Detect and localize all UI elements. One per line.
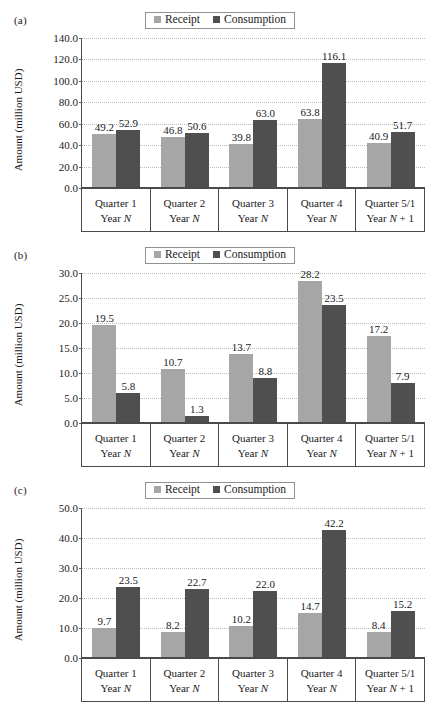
bar-consumption[interactable]: 1.3 [185, 416, 209, 423]
category-year-prefix: Year [306, 212, 329, 224]
bar-consumption[interactable]: 5.8 [116, 393, 140, 422]
category-quarter-label: Quarter 1 [95, 667, 137, 679]
category-cell: Quarter 2Year N [151, 424, 220, 466]
category-year-symbol: N [124, 447, 131, 459]
y-tick-label: 120.0 [53, 53, 78, 65]
bar-consumption[interactable]: 52.9 [116, 130, 140, 187]
legend-item-consumption: Consumption [213, 484, 286, 496]
chart-legend: ReceiptConsumption [0, 482, 440, 499]
category-quarter-label: Quarter 5/1 [365, 667, 415, 679]
bar-consumption[interactable]: 51.7 [391, 132, 415, 187]
bar-consumption[interactable]: 7.9 [391, 383, 415, 423]
category-quarter-label: Quarter 5/1 [365, 197, 415, 209]
bar-receipt[interactable]: 8.2 [161, 632, 185, 657]
bar-value-label: 46.8 [163, 124, 182, 136]
category-year-symbol: N [192, 212, 199, 224]
bar-value-label: 10.7 [163, 356, 182, 368]
category-cell: Quarter 1Year N [82, 424, 151, 466]
bar-groups: 19.55.810.71.313.78.828.223.517.27.9 [82, 273, 425, 422]
bar-consumption[interactable]: 15.2 [391, 611, 415, 657]
bar-value-label: 28.2 [300, 268, 319, 280]
bar-groups: 9.723.58.222.710.222.014.742.28.415.2 [82, 508, 425, 657]
category-year-symbol: N [389, 682, 396, 694]
legend-item-receipt: Receipt [154, 484, 200, 496]
legend-swatch-receipt-icon [154, 251, 161, 258]
y-tick-label: 0.0 [64, 652, 78, 664]
category-year-prefix: Year [238, 682, 261, 694]
legend-label-consumption: Consumption [224, 484, 286, 496]
plot-frame: 0.010.020.030.040.050.09.723.58.222.710.… [81, 508, 425, 658]
category-year-label: Year N [306, 682, 336, 694]
category-quarter-label: Quarter 4 [301, 667, 343, 679]
bar-receipt[interactable]: 10.2 [229, 626, 253, 657]
bar-receipt[interactable]: 13.7 [229, 354, 253, 423]
category-cell: Quarter 3Year N [219, 424, 288, 466]
legend-item-consumption: Consumption [213, 14, 286, 26]
bar-consumption[interactable]: 42.2 [322, 530, 346, 657]
bar-receipt[interactable]: 46.8 [161, 137, 185, 187]
category-year-symbol: N [329, 212, 336, 224]
bar-value-label: 5.8 [121, 380, 135, 392]
category-year-symbol: N [192, 682, 199, 694]
bar-group: 14.742.2 [288, 508, 357, 657]
y-tick-label: 100.0 [53, 75, 78, 87]
y-axis-title-text: Amount (million USD) [12, 68, 24, 171]
bar-receipt[interactable]: 10.7 [161, 369, 185, 423]
bar-receipt[interactable]: 49.2 [92, 134, 116, 187]
bar-value-label: 23.5 [119, 574, 138, 586]
bar-receipt[interactable]: 63.8 [298, 119, 322, 187]
category-year-prefix: Year [101, 682, 124, 694]
category-year-label: Year N [101, 682, 131, 694]
category-year-label: Year N [169, 447, 199, 459]
bar-value-label: 50.6 [187, 120, 206, 132]
legend-box: ReceiptConsumption [145, 247, 295, 264]
bar-consumption[interactable]: 23.5 [116, 587, 140, 658]
bar-group: 10.222.0 [219, 508, 288, 657]
bar-group: 39.863.0 [219, 38, 288, 187]
legend-box: ReceiptConsumption [145, 12, 295, 29]
bar-value-label: 63.8 [300, 106, 319, 118]
chart-legend: ReceiptConsumption [0, 12, 440, 29]
category-year-symbol: N [389, 212, 396, 224]
category-year-prefix: Year [238, 447, 261, 459]
category-year-prefix: Year [366, 212, 389, 224]
category-quarter-label: Quarter 2 [163, 667, 205, 679]
bar-receipt[interactable]: 14.7 [298, 613, 322, 657]
bar-consumption[interactable]: 116.1 [322, 63, 346, 187]
bar-receipt[interactable]: 9.7 [92, 628, 116, 657]
bar-receipt[interactable]: 39.8 [229, 144, 253, 187]
bar-group: 19.55.8 [82, 273, 151, 422]
bar-value-label: 1.3 [190, 403, 204, 415]
category-year-prefix: Year [366, 447, 389, 459]
y-tick-label: 30.0 [59, 267, 78, 279]
category-year-prefix: Year [238, 212, 261, 224]
bar-receipt[interactable]: 40.9 [367, 143, 391, 187]
bar-receipt[interactable]: 17.2 [367, 336, 391, 422]
plot-area: 0.05.010.015.020.025.030.019.55.810.71.3… [81, 273, 425, 423]
category-year-symbol: N [261, 447, 268, 459]
bar-consumption[interactable]: 63.0 [253, 120, 277, 188]
category-year-prefix: Year [169, 212, 192, 224]
category-year-prefix: Year [101, 447, 124, 459]
y-tick-label: 40.0 [59, 139, 78, 151]
bar-value-label: 15.2 [393, 598, 412, 610]
bar-consumption[interactable]: 23.5 [322, 305, 346, 423]
bar-consumption[interactable]: 8.8 [253, 378, 277, 422]
bar-receipt[interactable]: 19.5 [92, 325, 116, 423]
y-axis-title: Amount (million USD) [10, 52, 26, 187]
y-tick-label: 0.0 [64, 182, 78, 194]
category-year-label: Year N + 1 [366, 447, 414, 459]
bar-receipt[interactable]: 8.4 [367, 632, 391, 657]
bar-consumption[interactable]: 22.7 [185, 589, 209, 657]
bar-group: 8.222.7 [151, 508, 220, 657]
bar-value-label: 14.7 [300, 600, 319, 612]
category-cell: Quarter 5/1Year N + 1 [356, 659, 424, 701]
bar-value-label: 116.1 [322, 50, 346, 62]
category-year-label: Year N [306, 447, 336, 459]
bar-group: 10.71.3 [151, 273, 220, 422]
bar-receipt[interactable]: 28.2 [298, 281, 322, 422]
bar-consumption[interactable]: 50.6 [185, 133, 209, 187]
bar-consumption[interactable]: 22.0 [253, 591, 277, 657]
category-year-suffix: + 1 [397, 682, 414, 694]
y-tick-label: 15.0 [59, 342, 78, 354]
